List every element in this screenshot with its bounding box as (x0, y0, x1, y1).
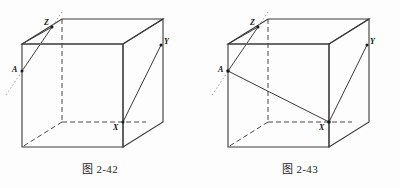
vertex-label-a: A (217, 65, 224, 74)
line-z-to-corner (22, 27, 52, 44)
line-a-to-x (228, 71, 329, 122)
vertex-label-x: X (318, 123, 325, 132)
vertex-label-y: Y (370, 37, 376, 46)
dotted-extension (6, 12, 62, 95)
vertex-dot-a (21, 70, 24, 73)
dotted-extension (212, 12, 268, 95)
hidden-edge-bottom-left (22, 122, 62, 147)
front-face (228, 44, 329, 147)
vertex-dot-x (327, 120, 331, 124)
front-face (22, 44, 123, 147)
vertex-dot-y (366, 44, 369, 47)
dotted-axis-line-left (6, 12, 62, 95)
dotted-axis-line-right (212, 12, 268, 95)
vertex-dot-a (226, 69, 230, 73)
vertex-label-z: Z (249, 18, 255, 27)
vertex-dots-left (21, 26, 163, 124)
construction-lines-left (22, 27, 161, 122)
right-face (123, 19, 163, 147)
vertex-dot-z (51, 26, 54, 29)
vertex-label-a: A (11, 65, 18, 74)
hidden-edges-group-right (228, 19, 352, 147)
vertex-label-z: Z (43, 18, 49, 27)
figure-caption-right: 图 2-43 (200, 160, 400, 176)
hidden-edges-group-left (22, 19, 146, 147)
construction-lines-right (228, 27, 367, 122)
vertex-label-y: Y (164, 37, 170, 46)
vertex-label-x: X (112, 123, 119, 132)
cube-diagram-right: Z A X Y (200, 0, 400, 160)
cube-diagram-left: Z A X Y (0, 0, 200, 160)
right-face (329, 19, 369, 147)
vertex-dots-right (226, 26, 368, 124)
line-z-to-a (22, 27, 52, 71)
vertex-dot-x (122, 121, 125, 124)
figure-block-left: Z A X Y 图 2-42 (0, 0, 200, 188)
hidden-edge-bottom-left (228, 122, 268, 147)
figure-page: Z A X Y 图 2-42 (0, 0, 400, 188)
figure-caption-left: 图 2-42 (0, 160, 200, 176)
line-x-to-y (123, 45, 161, 122)
figure-block-right: Z A X Y 图 2-43 (200, 0, 400, 188)
line-z-to-corner (228, 27, 258, 44)
vertex-dot-z (257, 26, 260, 29)
line-z-to-a (228, 27, 258, 71)
vertex-dot-y (160, 44, 163, 47)
line-x-to-y (329, 45, 367, 122)
figure-row: Z A X Y 图 2-42 (0, 0, 400, 188)
